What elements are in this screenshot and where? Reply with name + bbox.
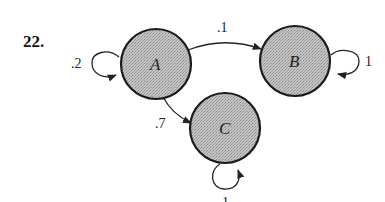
edge-label-b-self: 1 [365, 54, 372, 69]
markov-chain-diagram: 22. .1 .7 .2 1 1 A B C [0, 0, 385, 202]
self-loop-b [331, 50, 359, 74]
edge-label-c-self: 1 [222, 195, 229, 202]
edge-label-a-to-c: .7 [155, 116, 166, 131]
self-loop-c [213, 164, 240, 189]
node-b: B [260, 26, 330, 96]
edge-a-to-b [188, 43, 261, 50]
edge-a-to-c [163, 97, 191, 123]
problem-number: 22. [23, 32, 44, 51]
node-a: A [121, 29, 191, 99]
edge-label-a-to-b: .1 [217, 20, 228, 35]
self-loop-a [92, 52, 119, 77]
node-c: C [190, 93, 260, 163]
node-c-label: C [219, 119, 231, 138]
node-a-label: A [149, 55, 161, 74]
edge-label-a-self: .2 [71, 56, 82, 71]
node-b-label: B [289, 52, 300, 71]
